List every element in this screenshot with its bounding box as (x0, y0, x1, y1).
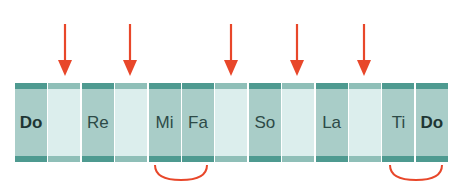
note-label: Re (82, 113, 114, 133)
note-label: Do (15, 113, 47, 133)
band-bottom (48, 156, 80, 162)
gap-cell (349, 83, 381, 162)
down-arrow-icon (224, 24, 238, 76)
band-top (282, 83, 314, 89)
note-cell-so: So (249, 83, 281, 162)
note-cell-fa: Fa (182, 83, 214, 162)
down-arrow-icon (58, 24, 72, 76)
band-top (349, 83, 381, 89)
note-cell-do-octave: Do (416, 83, 448, 162)
note-label: Ti (382, 113, 414, 133)
note-label: Do (416, 113, 448, 133)
note-cell-do: Do (15, 83, 47, 162)
down-arrow-icon (123, 24, 137, 76)
note-cell-re: Re (82, 83, 114, 162)
band-bottom (249, 156, 281, 162)
band-bottom (416, 156, 448, 162)
band-bottom (215, 156, 247, 162)
band-bottom (149, 156, 181, 162)
note-label: So (249, 113, 281, 133)
band-top (382, 83, 414, 89)
note-cell-la: La (316, 83, 348, 162)
gap-cell (115, 83, 147, 162)
band-top (215, 83, 247, 89)
gap-cell (282, 83, 314, 162)
band-bottom (349, 156, 381, 162)
band-bottom (82, 156, 114, 162)
band-top (48, 83, 80, 89)
band-top (182, 83, 214, 89)
band-top (316, 83, 348, 89)
down-arrow-icon (290, 24, 304, 76)
half-step-arc-ti-do (387, 163, 445, 183)
half-step-arc-mi-fa (152, 163, 210, 183)
band-bottom (15, 156, 47, 162)
band-top (149, 83, 181, 89)
band-bottom (382, 156, 414, 162)
note-label: Fa (182, 113, 214, 133)
note-cell-ti: Ti (382, 83, 414, 162)
note-cell-mi: Mi (149, 83, 181, 162)
band-top (249, 83, 281, 89)
down-arrow-icon (357, 24, 371, 76)
note-label: Mi (149, 113, 181, 133)
scale-strip: Do Re Mi Fa So La (15, 83, 449, 162)
band-bottom (115, 156, 147, 162)
band-bottom (316, 156, 348, 162)
band-top (82, 83, 114, 89)
band-bottom (182, 156, 214, 162)
band-top (416, 83, 448, 89)
band-top (15, 83, 47, 89)
gap-cell (48, 83, 80, 162)
band-top (115, 83, 147, 89)
gap-cell (215, 83, 247, 162)
band-bottom (282, 156, 314, 162)
note-label: La (316, 113, 348, 133)
